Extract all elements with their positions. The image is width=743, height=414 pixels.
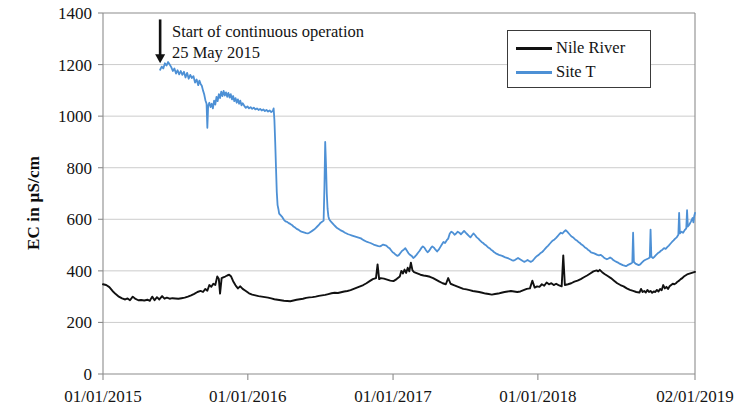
y-tick-label: 400 <box>18 262 92 279</box>
x-tick-label: 01/01/2016 <box>209 388 286 405</box>
legend-swatch-site-t <box>516 71 552 74</box>
legend-swatch-nile-river <box>516 47 552 50</box>
x-tick-label: 01/01/2018 <box>499 388 576 405</box>
ec-time-series-chart: EC in µS/cm 0200400600800100012001400 01… <box>0 0 743 414</box>
y-tick-label: 600 <box>18 211 92 228</box>
x-tick-label: 01/01/2015 <box>64 388 141 405</box>
x-tick-label: 02/01/2019 <box>656 388 733 405</box>
y-tick-label: 1200 <box>18 56 92 73</box>
y-tick-label: 800 <box>18 159 92 176</box>
annotation-line-1: Start of continuous operation <box>172 21 364 42</box>
y-tick-label: 200 <box>18 314 92 331</box>
y-tick-label: 1400 <box>18 5 92 22</box>
x-tick-label: 01/01/2017 <box>354 388 431 405</box>
gridlines <box>103 65 695 323</box>
y-tick-label: 0 <box>18 366 92 383</box>
start-of-operation-annotation: Start of continuous operation 25 May 201… <box>172 21 364 63</box>
y-tick-label: 1000 <box>18 108 92 125</box>
series-layer <box>103 62 695 301</box>
legend-label-site-t: Site T <box>556 62 596 82</box>
legend-item-nile-river: Nile River <box>516 36 650 60</box>
annotation-line-2: 25 May 2015 <box>172 42 364 63</box>
legend-item-site-t: Site T <box>516 60 650 84</box>
annotation-arrow <box>155 19 165 63</box>
chart-legend: Nile River Site T <box>507 30 651 88</box>
annotation-arrow-head <box>155 54 165 63</box>
series-line-nile-river <box>103 255 695 301</box>
legend-label-nile-river: Nile River <box>556 38 625 58</box>
series-line-site-t <box>160 62 695 266</box>
